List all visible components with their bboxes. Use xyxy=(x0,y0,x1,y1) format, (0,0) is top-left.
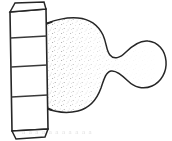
segmented-column xyxy=(10,2,48,139)
figure-illustration xyxy=(0,0,172,141)
column-bottom-face xyxy=(12,129,48,139)
figure-canvas: a a a a a a a a a a a xyxy=(0,0,172,141)
column-body xyxy=(10,9,48,131)
